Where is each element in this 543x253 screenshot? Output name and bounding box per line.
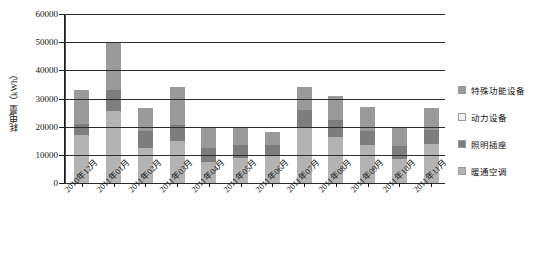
gridline (64, 14, 445, 15)
bar-segment[interactable] (201, 127, 216, 148)
y-axis-tick (59, 127, 64, 128)
gridline (64, 127, 445, 128)
legend-swatch-icon (458, 167, 466, 175)
bar-segment[interactable] (138, 131, 153, 148)
legend-item[interactable]: 特殊功能设备 (458, 76, 540, 103)
bar-segment[interactable] (392, 127, 407, 147)
legend-item-label: 特殊功能设备 (471, 84, 525, 96)
y-axis-tick-label: 10000 (36, 150, 59, 160)
y-axis-tick-label: 30000 (36, 94, 59, 104)
y-axis-tick (59, 99, 64, 100)
legend-item-label: 动力设备 (471, 111, 507, 123)
bar-segment[interactable] (233, 127, 248, 145)
gridline (64, 155, 445, 156)
bar-segment[interactable] (392, 146, 407, 159)
gridline (64, 99, 445, 100)
legend-item[interactable]: 暖通空调 (458, 157, 540, 184)
bar-segment[interactable] (360, 131, 375, 145)
y-axis-tick-label: 20000 (36, 122, 59, 132)
y-axis-tick (59, 42, 64, 43)
y-axis-tick-label: 40000 (36, 65, 59, 75)
gridline (64, 70, 445, 71)
legend-item[interactable]: 照明插座 (458, 130, 540, 157)
y-axis-tick-label: 60000 (36, 9, 59, 19)
y-axis-tick-label: 50000 (36, 37, 59, 47)
chart-legend: 特殊功能设备动力设备照明插座暖通空调 (458, 76, 540, 184)
y-axis-tick (59, 70, 64, 71)
bar-segment[interactable] (265, 132, 280, 145)
y-axis-tick-label: 0 (54, 178, 59, 188)
bar-segment[interactable] (74, 90, 89, 124)
x-axis-tick-labels: 2010年12月2011年01月2011年02月2011年03月2011年04月… (64, 183, 445, 253)
bar-segment[interactable] (106, 42, 121, 90)
y-axis-tick-labels: 0100002000030000400005000060000 (18, 0, 62, 253)
bar-chart: 耗电量（kWh） 0100002000030000400005000060000… (0, 0, 543, 253)
legend-swatch-icon (458, 113, 466, 121)
legend-item-label: 照明插座 (471, 138, 507, 150)
bar-segment[interactable] (74, 124, 89, 135)
bar-segment[interactable] (106, 90, 121, 111)
legend-swatch-icon (458, 140, 466, 148)
bar-segment[interactable] (424, 130, 439, 144)
y-axis-tick (59, 155, 64, 156)
bar-segment[interactable] (297, 110, 312, 128)
bar-segment[interactable] (328, 120, 343, 137)
bar-segment[interactable] (265, 145, 280, 155)
gridline (64, 42, 445, 43)
y-axis-tick (59, 14, 64, 15)
legend-swatch-icon (458, 86, 466, 94)
bar-segment[interactable] (170, 87, 185, 125)
legend-item[interactable]: 动力设备 (458, 103, 540, 130)
legend-item-label: 暖通空调 (471, 165, 507, 177)
